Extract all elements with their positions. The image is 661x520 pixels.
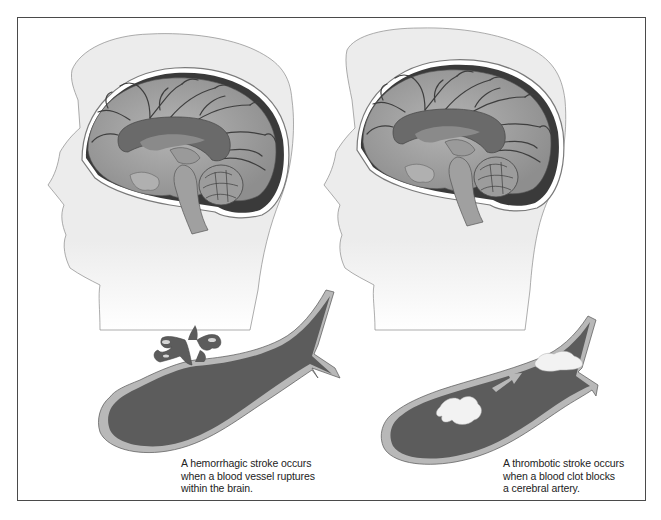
caption-thrombotic: A thrombotic stroke occurs when a blood … xyxy=(503,457,624,495)
caption-hemorrhagic: A hemorrhagic stroke occurs when a blood… xyxy=(181,457,315,495)
caption-line: a cerebral artery. xyxy=(503,482,624,495)
caption-line: when a blood vessel ruptures xyxy=(181,470,315,483)
cerebellum-right xyxy=(474,157,518,197)
caption-line: within the brain. xyxy=(181,482,315,495)
cerebellum-left xyxy=(199,165,243,205)
caption-line: when a blood clot blocks xyxy=(503,470,624,483)
stroke-illustration xyxy=(0,0,661,520)
blocked-artery xyxy=(381,316,598,464)
caption-line: A thrombotic stroke occurs xyxy=(503,457,624,470)
caption-line: A hemorrhagic stroke occurs xyxy=(181,457,315,470)
